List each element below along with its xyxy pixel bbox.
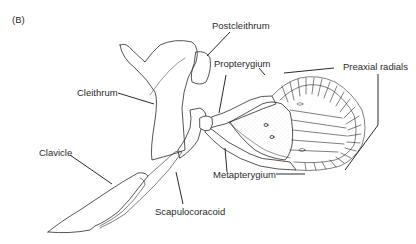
postcleithrum-bone [191, 52, 210, 84]
clavicle-bone [48, 173, 148, 233]
label-postcleithrum: Postcleithrum [212, 21, 270, 31]
leader-propterygium-b [259, 68, 265, 75]
leader-postcleithrum [207, 32, 230, 56]
leader-cleithrum [118, 93, 154, 104]
label-scapulocoracoid: Scapulocoracoid [155, 207, 225, 217]
diagram-canvas: (B) Postcleithrum Cleithrum Propterygium… [0, 0, 416, 244]
leader-clavicle [70, 155, 112, 184]
label-clavicle: Clavicle [39, 148, 72, 158]
label-cleithrum: Cleithrum [77, 88, 118, 98]
label-propterygium: Propterygium [214, 59, 271, 69]
leader-propterygium [219, 75, 226, 113]
label-metapterygium: Metapterygium [213, 170, 276, 180]
leader-scapulocoracoid [176, 172, 183, 204]
panel-label: (B) [12, 15, 25, 25]
label-preaxial-radials: Preaxial radials [343, 62, 408, 72]
leader-preaxial-top [284, 68, 334, 73]
leader-preaxial-bottom [345, 74, 378, 170]
